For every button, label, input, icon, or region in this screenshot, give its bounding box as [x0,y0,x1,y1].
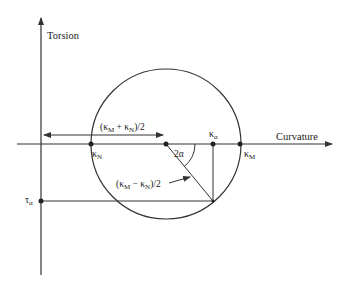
mohr-circle-diagram: Torsion Curvature (κM + κN)/2 2α (κM − κ… [0,0,348,291]
kappa-alpha-label: κα [209,128,218,141]
point-kappa-n [89,142,94,147]
radius-pointer-arrow [169,177,190,183]
center-offset-label: (κM + κN)/2 [100,122,145,134]
point-tau-alpha [39,199,44,204]
point-kappa-alpha [211,142,216,147]
angle-arc [185,144,196,166]
point-on-circle [212,200,215,203]
point-center [164,142,169,147]
point-kappa-m [238,142,243,147]
radius-label: (κM − κN)/2 [116,179,161,191]
torsion-axis-label: Torsion [47,30,80,41]
kappa-n-label: κN [92,148,102,161]
tau-alpha-label: τα [25,194,33,207]
curvature-axis-label: Curvature [276,131,318,142]
kappa-m-label: κM [244,148,256,161]
angle-label: 2α [174,149,184,159]
